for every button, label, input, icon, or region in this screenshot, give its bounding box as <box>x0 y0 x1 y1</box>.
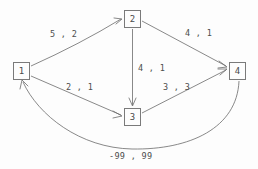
node-1-label: 1 <box>19 67 24 76</box>
edge-1-to-2 <box>31 18 122 66</box>
edge-2-to-4-path <box>142 21 226 66</box>
edge-label-4-to-1: -99 , 99 <box>109 152 152 161</box>
node-2[interactable]: 2 <box>124 10 141 28</box>
edge-label-2-to-3: 4 , 1 <box>138 64 165 73</box>
node-1[interactable]: 1 <box>13 62 30 80</box>
node-4-label: 4 <box>235 67 240 76</box>
node-3-label: 3 <box>130 113 135 122</box>
edge-label-3-to-4: 3 , 3 <box>163 83 190 92</box>
node-3[interactable]: 3 <box>124 108 141 126</box>
edge-1-to-2-path <box>31 19 121 66</box>
node-2-label: 2 <box>130 15 135 24</box>
edge-label-1-to-3: 2 , 1 <box>66 83 93 92</box>
edge-label-1-to-2: 5 , 2 <box>50 30 77 39</box>
graph-diagram-canvas: 1 2 3 4 5 , 2 4 , 1 4 , 1 2 , 1 3 , 3 -9… <box>0 0 258 169</box>
node-4[interactable]: 4 <box>229 62 246 80</box>
edge-label-2-to-4: 4 , 1 <box>185 29 212 38</box>
edge-2-to-3 <box>129 29 136 106</box>
